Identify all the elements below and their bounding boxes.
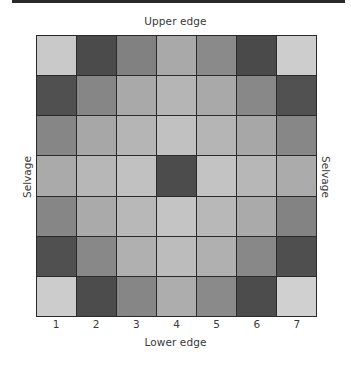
grid-cell xyxy=(237,156,276,195)
grid-cell xyxy=(77,116,116,155)
selvage-left-label: Selvage xyxy=(20,147,34,207)
grid-cell xyxy=(37,277,76,316)
grid-cell xyxy=(157,36,196,75)
grid-cell xyxy=(37,36,76,75)
grid-cell xyxy=(277,237,316,276)
grid-cell xyxy=(197,237,236,276)
column-label: 5 xyxy=(197,318,237,330)
grid-cell xyxy=(117,76,156,115)
grid-cell xyxy=(237,277,276,316)
grid-cell xyxy=(197,197,236,236)
grid-cell xyxy=(77,197,116,236)
grid-cell xyxy=(197,277,236,316)
grid-cell xyxy=(37,197,76,236)
grid-cell xyxy=(117,156,156,195)
grid-cell xyxy=(37,116,76,155)
column-label: 3 xyxy=(116,318,156,330)
grid-cell xyxy=(277,116,316,155)
sample-grid xyxy=(36,35,317,317)
grid-cell xyxy=(77,156,116,195)
grid-cell xyxy=(117,197,156,236)
upper-edge-label: Upper edge xyxy=(0,15,351,27)
grid-cell xyxy=(197,76,236,115)
grid-cell xyxy=(77,277,116,316)
grid-cell xyxy=(157,76,196,115)
top-rule xyxy=(12,0,345,3)
grid-cell xyxy=(277,36,316,75)
lower-edge-label: Lower edge xyxy=(0,336,351,348)
grid-cell xyxy=(157,156,196,195)
grid-cell xyxy=(77,36,116,75)
column-labels: 1234567 xyxy=(36,318,317,330)
grid-cell xyxy=(157,116,196,155)
grid-cell xyxy=(237,197,276,236)
grid-cell xyxy=(277,76,316,115)
grid-cell xyxy=(77,237,116,276)
grid-cell xyxy=(237,76,276,115)
grid-cell xyxy=(237,237,276,276)
grid-cell xyxy=(277,277,316,316)
grid-cell xyxy=(37,237,76,276)
grid-cell xyxy=(117,277,156,316)
grid-cell xyxy=(157,197,196,236)
grid-cell xyxy=(197,36,236,75)
grid-cell xyxy=(157,277,196,316)
grid-cell xyxy=(237,36,276,75)
grid-cell xyxy=(277,197,316,236)
selvage-right-label: Selvage xyxy=(319,147,333,207)
grid-cell xyxy=(197,156,236,195)
grid-cell xyxy=(117,237,156,276)
grid-cell xyxy=(197,116,236,155)
column-label: 1 xyxy=(36,318,76,330)
grid-cell xyxy=(37,156,76,195)
grid-cell xyxy=(117,36,156,75)
grid-cell xyxy=(77,76,116,115)
column-label: 6 xyxy=(237,318,277,330)
grid-cell xyxy=(237,116,276,155)
column-label: 2 xyxy=(76,318,116,330)
grid-cell xyxy=(277,156,316,195)
grid-cell xyxy=(157,237,196,276)
column-label: 4 xyxy=(156,318,196,330)
grid-cell xyxy=(117,116,156,155)
grid-cell xyxy=(37,76,76,115)
column-label: 7 xyxy=(277,318,317,330)
